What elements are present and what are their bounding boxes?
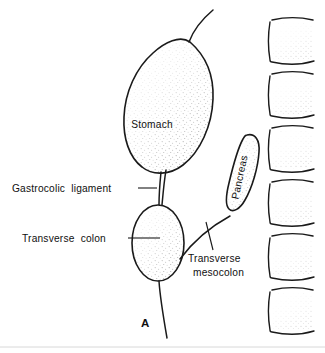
transverse-colon-label: Transverse colon: [22, 233, 106, 244]
vertebra-body: [269, 288, 315, 334]
stomach-label: Stomach: [131, 119, 173, 130]
transverse-colon-organ: [130, 203, 188, 285]
vertebra-body: [269, 234, 315, 280]
gastrocolic-ligament-band: [159, 170, 166, 205]
panel-letter-label: A: [141, 317, 149, 329]
vertebra-body: [269, 126, 315, 172]
vertebra-body: [269, 180, 315, 226]
lumbar-vertebral-bodies: [269, 18, 315, 334]
transverse-mesocolon-leader: [206, 222, 213, 250]
anatomy-figure: Stomach Pancreas Gastrocolic ligament Tr…: [0, 0, 325, 353]
vertebra-body: [269, 18, 315, 64]
gastrocolic-ligament-label: Gastrocolic ligament: [12, 183, 111, 194]
transverse-mesocolon-label-line2: mesocolon: [193, 267, 244, 278]
stomach-organ: [118, 30, 222, 180]
anatomy-diagram-canvas: Stomach Pancreas Gastrocolic ligament Tr…: [0, 0, 325, 353]
vertebra-body: [269, 72, 315, 118]
esophagus-line: [189, 10, 213, 42]
transverse-mesocolon-label-line1: Transverse: [188, 253, 241, 264]
descending-omentum-line: [159, 281, 167, 338]
